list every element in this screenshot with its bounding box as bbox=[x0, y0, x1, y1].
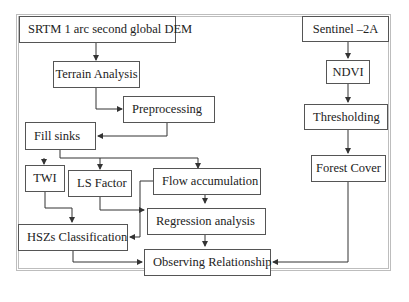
node-regression-analysis: Regression analysis bbox=[147, 208, 266, 235]
node-terrain-analysis: Terrain Analysis bbox=[53, 61, 140, 88]
node-observing-relationship: Observing Relationship bbox=[144, 249, 271, 276]
node-ls-factor: LS Factor bbox=[68, 170, 132, 197]
node-srtm-dem: SRTM 1 arc second global DEM bbox=[19, 16, 176, 43]
node-thresholding: Thresholding bbox=[304, 104, 388, 130]
node-fill-sinks: Fill sinks bbox=[25, 122, 96, 150]
node-twi: TWI bbox=[25, 165, 65, 192]
node-flow-accumulation: Flow accumulation bbox=[153, 168, 261, 195]
node-ndvi: NDVI bbox=[326, 60, 370, 84]
node-forest-cover: Forest Cover bbox=[311, 155, 386, 182]
node-preprocessing: Preprocessing bbox=[123, 96, 215, 123]
node-sentinel-2a: Sentinel –2A bbox=[302, 16, 389, 42]
node-hszs-classification: HSZs Classification bbox=[18, 224, 128, 251]
